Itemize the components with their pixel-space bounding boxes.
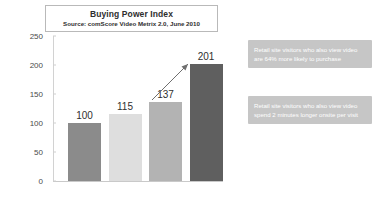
x-axis-line [53, 181, 223, 182]
bar-value-label-2: 137 [149, 89, 182, 100]
chart-title-box: Buying Power Index Source: comScore Vide… [45, 5, 218, 32]
y-axis-tick-label: 200 [9, 61, 43, 70]
y-axis-tick-label: 0 [9, 177, 43, 186]
bar-value-label-0: 100 [68, 110, 101, 121]
callout-1-text: Retail site visitors who also view video… [254, 46, 357, 62]
y-axis-tick-label: 50 [9, 148, 43, 157]
y-axis-tick-label: 100 [9, 119, 43, 128]
bar-value-label-1: 115 [109, 101, 142, 112]
y-axis-tick [53, 94, 56, 95]
y-axis-tick [53, 36, 56, 37]
plot-area: 050100150200250100Total Internet115Total… [53, 36, 221, 181]
bar-value-label-3: 201 [190, 51, 223, 62]
bar-0 [68, 123, 101, 181]
bar-1 [109, 114, 142, 181]
y-axis-tick [53, 181, 56, 182]
callout-time-onsite: Retail site visitors who also view video… [248, 96, 372, 124]
chart-subtitle: Source: comScore Video Metrix 2.0, June … [63, 20, 200, 28]
y-axis-tick-label: 150 [9, 90, 43, 99]
y-axis-tick-label: 250 [9, 32, 43, 41]
page-title: Buying Power Index [90, 9, 173, 19]
bar-3 [190, 64, 223, 181]
y-axis-tick [53, 152, 56, 153]
callout-purchase-likelihood: Retail site visitors who also view video… [248, 40, 372, 68]
y-axis-tick [53, 65, 56, 66]
bar-2 [149, 102, 182, 181]
callout-2-text: Retail site visitors who also view video… [254, 102, 358, 118]
y-axis-tick [53, 123, 56, 124]
